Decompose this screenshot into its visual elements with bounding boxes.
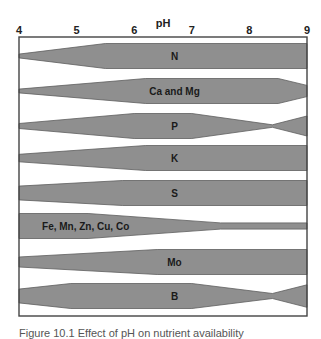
- band-label: B: [171, 291, 178, 302]
- band-label: Fe, Mn, Zn, Cu, Co: [42, 221, 129, 232]
- x-tick-label: 4: [16, 24, 23, 36]
- band-label: Mo: [167, 257, 181, 268]
- x-tick-label: 9: [304, 24, 310, 36]
- nutrient-bands: NCa and MgPKSFe, Mn, Zn, Cu, CoMoB: [19, 44, 307, 309]
- x-axis-title: pH: [156, 17, 171, 29]
- band-n: [19, 44, 307, 69]
- band-p: [19, 114, 307, 139]
- x-tick-label: 8: [246, 24, 252, 36]
- band-label: Ca and Mg: [149, 86, 200, 97]
- band-b: [19, 284, 307, 309]
- band-k: [19, 146, 307, 171]
- x-tick-label: 7: [189, 24, 195, 36]
- band-label: S: [171, 188, 178, 199]
- band-label: P: [171, 121, 178, 132]
- figure-caption: Figure 10.1 Effect of pH on nutrient ava…: [19, 327, 244, 339]
- x-tick-label: 6: [131, 24, 137, 36]
- x-tick-label: 5: [74, 24, 80, 36]
- band-mo: [19, 250, 307, 275]
- band-label: N: [171, 51, 178, 62]
- band-label: K: [171, 153, 179, 164]
- band-s: [19, 181, 307, 206]
